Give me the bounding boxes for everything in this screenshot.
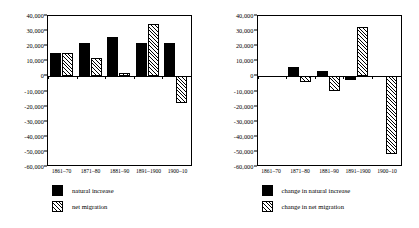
bar-solid [164,43,175,76]
zero-baseline [48,76,191,77]
bar-solid [79,43,90,76]
x-axis-label: 1881–90 [315,168,344,178]
bar-group [48,16,77,165]
x-axis-label: 1871–80 [286,168,315,178]
legend-left: natural increasenet migration [52,182,202,214]
y-tick-label: -20,000 [234,102,254,109]
bar-group [343,16,372,165]
legend-item: change in net migration [262,198,412,214]
y-tick-label: -40,000 [234,132,254,139]
legend-item: change in natural increase [262,182,412,198]
y-tick-label: 40,000 [236,12,254,19]
bar-group [315,16,344,165]
y-tick-label: -50,000 [24,147,44,154]
legend-item: net migration [52,198,202,214]
bar-hatch [176,76,187,102]
x-axis-label: 1861–70 [257,168,286,178]
y-tick-label: -50,000 [234,147,254,154]
legend-swatch-solid [262,185,273,196]
x-axis-labels-right: 1861–701871–801881–901891–19001900–10 [257,168,402,178]
y-tick-label: 10,000 [26,57,44,64]
y-tick-label: 40,000 [26,12,44,19]
zero-baseline [258,76,401,77]
bar-hatch [357,27,368,76]
x-axis-label: 1881–90 [105,168,134,178]
two-panel-bar-chart-figure: 40,00030,00020,00010,0000-10,000-20,000-… [0,0,419,228]
x-axis-labels-left: 1861–701871–801881–901891–19001900–10 [47,168,192,178]
y-tick-label: 30,000 [26,27,44,34]
y-tick-label: -10,000 [24,87,44,94]
bar-group [134,16,163,165]
legend-label: natural increase [72,187,114,194]
y-tick-label: -10,000 [234,87,254,94]
y-tick-label: -30,000 [234,117,254,124]
bar-hatch [386,76,397,154]
bar-solid [136,43,147,76]
bar-groups-left [48,16,191,165]
chart-panel-left: 40,00030,00020,00010,0000-10,000-20,000-… [0,0,210,228]
y-tick-label: 20,000 [236,42,254,49]
plot-area-right [257,15,402,166]
legend-label: change in net migration [282,203,344,210]
bar-group [372,16,401,165]
bar-hatch [148,24,159,76]
y-tick-label: -60,000 [24,163,44,170]
x-axis-label: 1891–1900 [344,168,373,178]
x-axis-label: 1900–10 [373,168,402,178]
bar-group [258,16,287,165]
bar-solid [50,53,61,76]
bar-hatch [329,76,340,91]
legend-item: natural increase [52,182,202,198]
y-tick-label: -60,000 [234,163,254,170]
y-tick-label: -20,000 [24,102,44,109]
y-tick-label: 30,000 [236,27,254,34]
bar-solid [107,37,118,76]
x-axis-label: 1861–70 [47,168,76,178]
bar-group [105,16,134,165]
legend-right: change in natural increasechange in net … [262,182,412,214]
y-axis-left: 40,00030,00020,00010,0000-10,000-20,000-… [0,15,47,166]
bar-group [77,16,106,165]
y-axis-right: 40,00030,00020,00010,0000-10,000-20,000-… [210,15,257,166]
plot-area-left [47,15,192,166]
bar-hatch [62,53,73,77]
bar-groups-right [258,16,401,165]
legend-label: change in natural increase [282,187,351,194]
x-axis-label: 1871–80 [76,168,105,178]
legend-label: net migration [72,203,107,210]
x-axis-label: 1891–1900 [134,168,163,178]
y-tick-label: -30,000 [24,117,44,124]
y-tick-label: 20,000 [26,42,44,49]
bar-group [286,16,315,165]
x-axis-label: 1900–10 [163,168,192,178]
chart-panel-right: 40,00030,00020,00010,0000-10,000-20,000-… [210,0,419,228]
legend-swatch-solid [52,185,63,196]
bar-group [162,16,191,165]
legend-swatch-hatch [52,201,63,212]
legend-swatch-hatch [262,201,273,212]
y-tick-label: 10,000 [236,57,254,64]
bar-solid [288,67,299,76]
y-tick-label: -40,000 [24,132,44,139]
bar-hatch [91,58,102,76]
